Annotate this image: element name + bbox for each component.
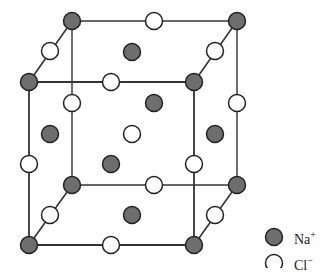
na-ion-icon	[21, 74, 38, 91]
cl-ion-icon	[146, 13, 163, 30]
na-ion-icon	[21, 237, 38, 254]
cl-ion-icon	[42, 207, 59, 224]
na-ion-icon	[64, 177, 81, 194]
cl-ion-icon	[42, 43, 59, 60]
legend-cl-icon	[266, 255, 283, 269]
cl-ion-icon	[186, 156, 203, 173]
na-ion-icon	[207, 126, 224, 143]
legend-cl-charge: −	[307, 255, 313, 266]
cl-ion-icon	[103, 74, 120, 91]
na-ion-icon	[146, 95, 163, 112]
cl-ion-icon	[146, 177, 163, 194]
legend-na-label: Na+	[294, 229, 316, 248]
na-ion-icon	[124, 44, 141, 61]
na-ion-icon	[124, 207, 141, 224]
na-ion-icon	[186, 237, 203, 254]
na-ion-icon	[103, 156, 120, 173]
na-ion-icon	[229, 13, 246, 30]
cl-ion-icon	[64, 95, 81, 112]
na-ion-icon	[229, 177, 246, 194]
na-ion-icon	[42, 126, 59, 143]
legend-na-charge: +	[310, 229, 316, 240]
cl-ion-icon	[124, 126, 141, 143]
cl-ion-icon	[207, 207, 224, 224]
legend-cl-label: Cl−	[294, 255, 313, 274]
na-ion-icon	[186, 74, 203, 91]
cl-ion-icon	[207, 43, 224, 60]
cl-ion-icon	[21, 156, 38, 173]
cl-ion-icon	[229, 95, 246, 112]
cl-ion-icon	[103, 237, 120, 254]
legend-na-text: Na	[294, 232, 310, 247]
legend-na-icon	[266, 229, 283, 246]
na-ion-icon	[64, 13, 81, 30]
legend-cl-text: Cl	[294, 258, 307, 273]
